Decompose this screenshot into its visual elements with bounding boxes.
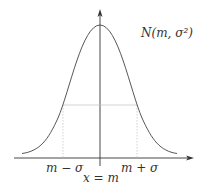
mean-label: x = m xyxy=(83,171,119,185)
normal-distribution-diagram: N(m, σ²) m − σ m + σ x = m xyxy=(0,0,210,194)
distribution-label: N(m, σ²) xyxy=(140,26,193,40)
right-sigma-label: m + σ xyxy=(121,161,159,175)
left-sigma-label: m − σ xyxy=(46,161,84,175)
gaussian-curve xyxy=(22,25,177,154)
